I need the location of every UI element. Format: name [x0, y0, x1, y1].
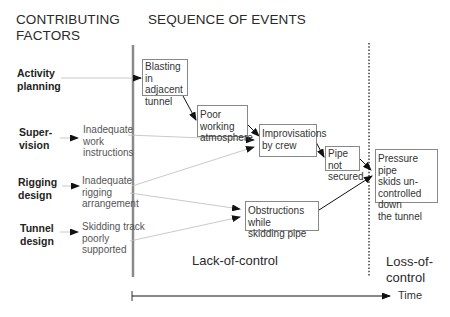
event-text-line: atmosphere [200, 132, 245, 144]
cause-line: supported [82, 244, 145, 256]
factor-label-line: design [20, 235, 54, 248]
event-text-line: Obstructions while [248, 205, 316, 228]
event-pressure-pipe-skids: Pressure pipe skids un- controlled down … [375, 149, 438, 203]
factor-label-line: vision [19, 139, 52, 152]
factor-label-line: Super- [19, 126, 52, 139]
cause-line: arrangement [82, 198, 139, 210]
factor-label-line: Activity [17, 67, 61, 80]
event-text-line: Poor working [200, 109, 245, 132]
factor-label-line: Rigging [18, 176, 57, 189]
factor-label-line: design [18, 189, 57, 202]
event-text-line: by crew [262, 140, 314, 152]
event-text-line: skidding pipe [248, 228, 316, 240]
time-axis-label: Time [398, 289, 422, 301]
event-text-line: Improvisations [262, 128, 314, 140]
event-text-line: the tunnel [378, 211, 435, 223]
event-text-line: secured [328, 171, 357, 183]
factor-tunnel-design: Tunnel design [20, 222, 54, 247]
factor-label-line: planning [17, 80, 61, 93]
cause-skidding-track-poorly-supported: Skidding track poorly supported [82, 221, 145, 256]
cause-line: rigging [82, 187, 139, 199]
cause-line: Skidding track [82, 221, 145, 233]
phase-line: control [386, 270, 433, 286]
phase-line: Loss-of- [386, 254, 433, 270]
event-improvisations: Improvisations by crew [259, 124, 317, 157]
cause-inadequate-work-instructions: Inadequate work instructions [83, 124, 134, 159]
event-text-line: skids un- [378, 176, 435, 188]
event-poor-working-atmosphere: Poor working atmosphere [197, 105, 248, 137]
cause-line: work [83, 136, 134, 148]
cause-line: Inadequate [82, 175, 139, 187]
cause-inadequate-rigging-arrangement: Inadequate rigging arrangement [82, 175, 139, 210]
factor-label-line: Tunnel [20, 222, 54, 235]
event-text-line: tunnel [145, 96, 185, 108]
event-text-line: Pressure pipe [378, 153, 435, 176]
event-text-line: Blasting in [145, 61, 185, 84]
factor-supervision: Super- vision [19, 126, 52, 151]
factor-activity-planning: Activity planning [17, 67, 61, 92]
event-obstructions: Obstructions while skidding pipe [245, 201, 319, 231]
cause-line: instructions [83, 147, 134, 159]
event-text-line: adjacent [145, 84, 185, 96]
phase-loss-of-control: Loss-of- control [386, 254, 433, 286]
event-text-line: controlled down [378, 188, 435, 211]
event-text-line: Pipe not [328, 148, 357, 171]
event-pipe-not-secured: Pipe not secured [325, 146, 360, 171]
event-blasting: Blasting in adjacent tunnel [142, 59, 188, 96]
phase-lack-of-control: Lack-of-control [192, 253, 278, 269]
cause-line: Inadequate [83, 124, 134, 136]
cause-line: poorly [82, 233, 145, 245]
factor-rigging-design: Rigging design [18, 176, 57, 201]
